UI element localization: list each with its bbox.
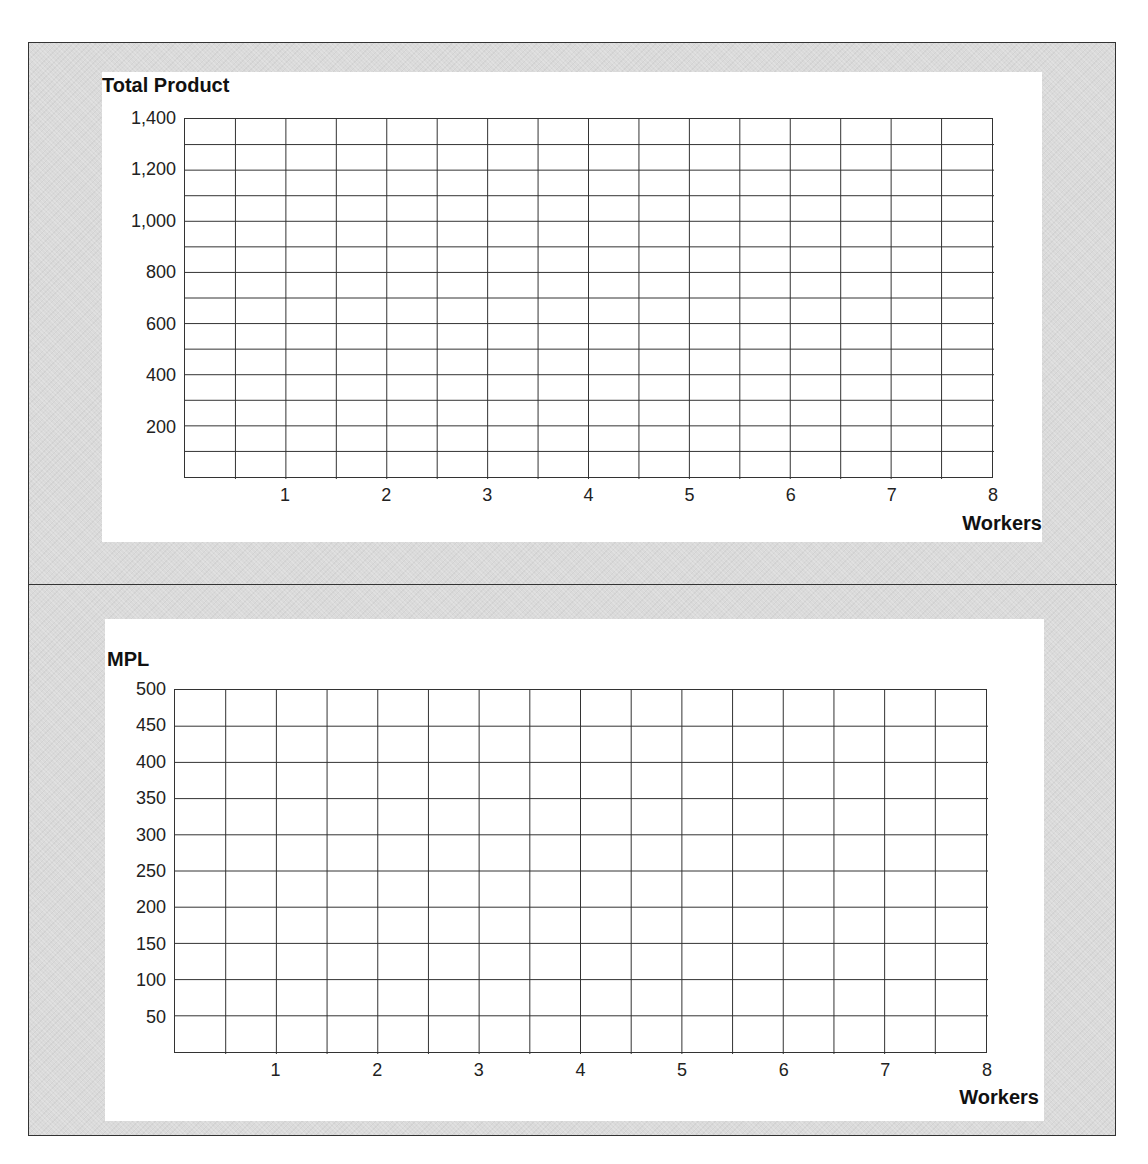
x-tick-label: 2 <box>362 1061 392 1079</box>
x-tick-label: 5 <box>675 486 705 504</box>
x-tick-label: 1 <box>261 1061 291 1079</box>
x-tick-label: 1 <box>270 486 300 504</box>
y-tick-label: 250 <box>86 862 166 880</box>
y-tick-label: 200 <box>86 898 166 916</box>
total-product-panel: Total Product 1,4001,2001,00080060040020… <box>102 72 1042 542</box>
x-tick-label: 8 <box>972 1061 1002 1079</box>
mpl-grid <box>174 689 987 1053</box>
y-tick-label: 1,000 <box>96 212 176 230</box>
y-tick-label: 600 <box>96 315 176 333</box>
y-tick-label: 450 <box>86 716 166 734</box>
y-tick-label: 150 <box>86 935 166 953</box>
y-tick-label: 50 <box>86 1008 166 1026</box>
x-tick-label: 7 <box>870 1061 900 1079</box>
y-tick-label: 350 <box>86 789 166 807</box>
section-divider <box>28 584 1117 585</box>
total-product-x-axis-title: Workers <box>962 512 1042 535</box>
x-tick-label: 3 <box>464 1061 494 1079</box>
x-tick-label: 4 <box>566 1061 596 1079</box>
y-tick-label: 100 <box>86 971 166 989</box>
mpl-x-axis-title: Workers <box>959 1086 1039 1109</box>
x-tick-label: 6 <box>776 486 806 504</box>
x-tick-label: 4 <box>574 486 604 504</box>
y-tick-label: 1,400 <box>96 109 176 127</box>
x-tick-label: 7 <box>877 486 907 504</box>
y-tick-label: 200 <box>96 418 176 436</box>
grid-lines <box>175 690 988 1054</box>
total-product-grid <box>184 118 993 478</box>
x-tick-label: 3 <box>472 486 502 504</box>
x-tick-label: 6 <box>769 1061 799 1079</box>
y-tick-label: 800 <box>96 263 176 281</box>
y-tick-label: 400 <box>86 753 166 771</box>
y-tick-label: 300 <box>86 826 166 844</box>
y-tick-label: 500 <box>86 680 166 698</box>
x-tick-label: 2 <box>371 486 401 504</box>
mpl-y-axis-title: MPL <box>107 648 149 671</box>
x-tick-label: 8 <box>978 486 1008 504</box>
y-tick-label: 400 <box>96 366 176 384</box>
y-tick-label: 1,200 <box>96 160 176 178</box>
mpl-panel: MPL 50045040035030025020015010050 123456… <box>105 619 1044 1121</box>
grid-lines <box>185 119 994 479</box>
x-tick-label: 5 <box>667 1061 697 1079</box>
total-product-y-axis-title: Total Product <box>102 74 229 97</box>
